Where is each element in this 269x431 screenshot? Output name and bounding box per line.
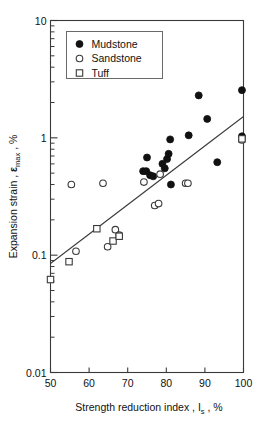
- regression-line: [51, 116, 244, 263]
- x-tick-label: 90: [199, 377, 211, 389]
- legend-marker-sandstone[interactable]: [76, 55, 83, 62]
- y-tick-label: 1: [41, 132, 47, 144]
- data-point-mudstone[interactable]: [161, 165, 168, 172]
- scatter-chart: 0.010.11105060708090100MudstoneSandstone…: [0, 0, 269, 431]
- x-tick-label: 60: [83, 377, 95, 389]
- data-point-mudstone[interactable]: [185, 132, 192, 139]
- data-point-tuff[interactable]: [94, 226, 100, 232]
- data-point-sandstone[interactable]: [185, 180, 192, 187]
- legend-marker-mudstone[interactable]: [76, 41, 83, 48]
- y-tick-label: 10: [35, 15, 47, 27]
- legend-label-mudstone: Mudstone: [92, 38, 138, 50]
- data-point-tuff[interactable]: [116, 233, 122, 239]
- data-point-sandstone[interactable]: [155, 200, 162, 207]
- data-point-mudstone[interactable]: [150, 173, 157, 180]
- data-point-sandstone[interactable]: [100, 180, 107, 187]
- data-point-tuff[interactable]: [66, 258, 72, 264]
- data-point-sandstone[interactable]: [141, 179, 148, 186]
- y-tick-label: 0.1: [32, 249, 47, 261]
- data-point-mudstone[interactable]: [167, 136, 174, 143]
- figure-container: 0.010.11105060708090100MudstoneSandstone…: [0, 0, 269, 431]
- legend-label-sandstone: Sandstone: [92, 52, 142, 64]
- legend-label-tuff: Tuff: [92, 67, 110, 79]
- data-point-sandstone[interactable]: [157, 171, 164, 178]
- data-point-mudstone[interactable]: [238, 87, 245, 94]
- y-axis-title: Expansion strain , εmax , %: [7, 135, 22, 259]
- data-point-mudstone[interactable]: [144, 154, 151, 161]
- x-tick-label: 50: [45, 377, 57, 389]
- x-tick-label: 100: [235, 377, 253, 389]
- x-axis-title: Strength reduction index , Is , %: [75, 401, 222, 416]
- data-point-tuff[interactable]: [110, 238, 116, 244]
- data-point-mudstone[interactable]: [167, 181, 174, 188]
- data-point-tuff[interactable]: [239, 136, 245, 142]
- data-point-tuff[interactable]: [47, 276, 53, 282]
- data-point-sandstone[interactable]: [73, 248, 80, 255]
- legend-marker-tuff[interactable]: [76, 70, 82, 76]
- x-tick-label: 70: [122, 377, 134, 389]
- data-point-mudstone[interactable]: [214, 159, 221, 166]
- y-tick-label: 0.01: [26, 367, 47, 379]
- data-point-mudstone[interactable]: [195, 92, 202, 99]
- x-tick-label: 80: [160, 377, 172, 389]
- data-point-mudstone[interactable]: [165, 150, 172, 157]
- data-point-mudstone[interactable]: [204, 115, 211, 122]
- data-point-sandstone[interactable]: [68, 181, 75, 188]
